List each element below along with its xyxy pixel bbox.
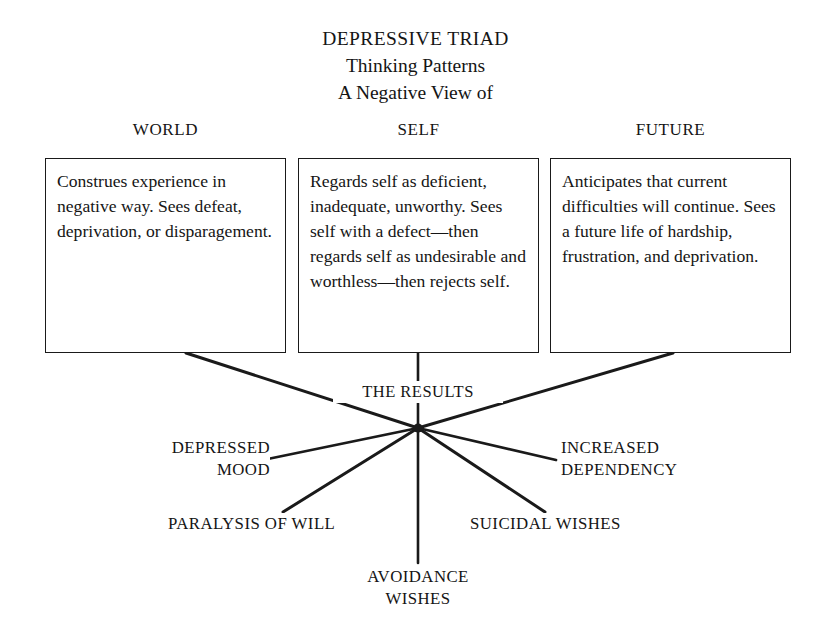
results-hub-label: THE RESULTS xyxy=(333,381,503,403)
column-header-self: SELF xyxy=(298,120,539,140)
outcome-avoidance-wishes: AVOIDANCE WISHES xyxy=(333,566,503,610)
title-line-tertiary: A Negative View of xyxy=(0,80,831,107)
triad-box-self-text: Regards self as deficient, inadequate, u… xyxy=(299,159,538,293)
triad-box-self: Regards self as deficient, inadequate, u… xyxy=(298,158,539,353)
diagram-title: DEPRESSIVE TRIAD Thinking Patterns A Neg… xyxy=(0,26,831,107)
edge-hub-to-suicidal xyxy=(418,428,545,512)
triad-box-future-text: Anticipates that current difficulties wi… xyxy=(551,159,790,269)
triad-box-world: Construes experience in negative way. Se… xyxy=(45,158,286,353)
depressive-triad-diagram: DEPRESSIVE TRIAD Thinking Patterns A Neg… xyxy=(0,0,831,644)
outcome-depressed-mood: DEPRESSED MOOD xyxy=(148,437,270,481)
triad-box-world-text: Construes experience in negative way. Se… xyxy=(46,159,285,244)
edge-hub-to-increased xyxy=(418,428,556,460)
edge-hub-to-depressed xyxy=(258,428,418,461)
column-header-world: WORLD xyxy=(45,120,286,140)
outcome-suicidal-wishes: SUICIDAL WISHES xyxy=(470,513,670,535)
hub-node xyxy=(413,423,422,432)
column-header-future: FUTURE xyxy=(550,120,791,140)
title-line-primary: DEPRESSIVE TRIAD xyxy=(0,26,831,53)
title-line-secondary: Thinking Patterns xyxy=(0,53,831,80)
outcome-increased-dependency: INCREASED DEPENDENCY xyxy=(561,437,721,481)
triad-box-future: Anticipates that current difficulties wi… xyxy=(550,158,791,353)
edge-hub-to-paralysis xyxy=(283,428,418,512)
outcome-paralysis-of-will: PARALYSIS OF WILL xyxy=(168,513,368,535)
